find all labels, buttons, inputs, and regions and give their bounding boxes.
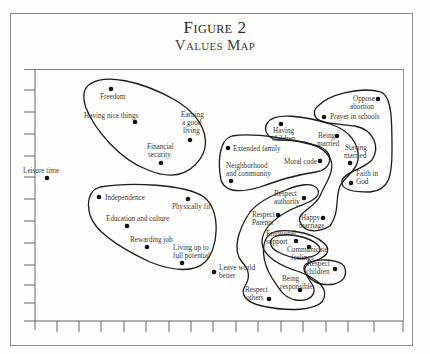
label-earning-2: a good [182,119,202,127]
label-physically-fit: Physically fit [172,203,210,211]
label-faith-2: God [356,178,369,186]
label-extended: Extended family [233,145,281,153]
point-respect-authority [302,196,307,201]
point-nice-things [133,120,138,125]
label-financial-2: security [148,151,171,159]
label-living-2: full potential [173,252,210,260]
point-earning [188,138,193,143]
point-education [125,224,130,229]
point-leave-world [212,270,217,275]
point-independence [97,195,102,200]
label-communicate-1: Communicate [287,246,327,254]
label-respect-parents-2: Parents [252,219,273,227]
point-happy-marriage [321,216,326,221]
label-leave-1: Leave world [219,264,256,272]
point-prayer [322,115,327,120]
label-rewarding: Rewarding job [130,236,173,244]
label-respect-authority-2: authority [274,198,300,206]
label-respect-others-2: others [246,294,264,302]
label-emotional-1: Emotional [266,230,296,238]
point-neighborhood [229,179,234,184]
plot-area [24,69,404,330]
point-labels: Freedom Having nice things Earning a goo… [23,93,380,302]
label-respect-authority-1: Respect [274,190,297,198]
point-staying-married [348,161,353,166]
label-oppose-1: Oppose [353,95,375,103]
label-respect-children-1: Respect [307,260,330,268]
label-neighborhood-2: and community [226,170,271,178]
point-respect-children [333,267,338,272]
label-leave-2: better [219,272,236,280]
label-financial-1: Financial [147,143,174,151]
label-respect-children-2: children [306,268,330,276]
label-responsible-1: Being [282,275,300,283]
label-being-married-2: married [317,140,340,148]
label-prayer: Prayer in schools [330,113,380,121]
label-leisure: Leisure time [23,167,59,175]
label-having-children-2: children [272,135,296,143]
label-oppose-2: abortion [350,103,374,111]
label-nice-things: Having nice things [84,112,138,120]
point-faith [349,181,354,186]
label-earning-3: living [183,127,200,135]
point-living-up [180,261,185,266]
label-respect-others-1: Respect [245,286,268,294]
label-living-1: Living up to [173,244,209,252]
label-education: Education and culture [106,215,169,223]
label-faith-1: Faith in [356,170,379,178]
label-moral: Moral code [284,158,317,166]
point-respect-others [267,297,272,302]
point-respect-parents [276,213,281,218]
label-happy-2: marriage [299,222,325,230]
label-respect-parents-1: Respect [252,211,275,219]
label-staying-1: Staying [345,144,367,152]
label-neighborhood-1: Neighborhood [226,162,268,170]
point-leisure [45,176,50,181]
point-having-children [279,122,284,127]
x-axis-ticks [57,321,403,332]
point-extended-family [226,146,231,151]
label-independence: Independence [105,194,145,202]
point-freedom [109,87,114,92]
label-having-children-1: Having [273,127,295,135]
point-oppose-abortion [376,97,381,102]
label-responsible-2: responsible [280,283,313,291]
label-staying-2: married [344,152,367,160]
point-moral-code [318,159,323,164]
point-rewarding-job [145,245,150,250]
label-emotional-2: support [266,238,288,246]
label-being-married-1: Being [318,132,336,140]
values-map-plot: Freedom Having nice things Earning a goo… [0,0,430,354]
point-financial [159,161,164,166]
y-axis-ticks [24,90,35,303]
label-freedom: Freedom [100,93,126,101]
point-being-married [335,134,340,139]
label-happy-1: Happy [301,214,321,222]
label-earning-1: Earning [181,111,204,119]
point-physically-fit [186,197,191,202]
point-emotional-support [294,239,299,244]
